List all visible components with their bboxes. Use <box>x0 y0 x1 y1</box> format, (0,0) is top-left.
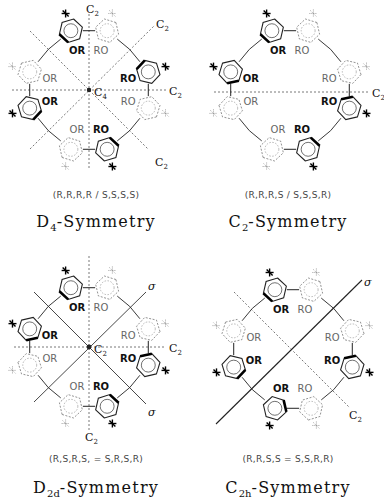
aryl-ring <box>300 397 323 420</box>
tert-butyl-group <box>266 422 274 430</box>
alkoxy-label: RO <box>322 73 337 84</box>
tert-butyl-group <box>8 320 16 328</box>
tert-butyl-group <box>309 163 317 171</box>
aryl-ring <box>338 97 361 120</box>
aryl-ring <box>59 395 82 418</box>
alkoxy-label: OR <box>70 381 85 392</box>
sigma-label-upper-right: σ <box>148 280 156 293</box>
tert-butyl-group <box>108 163 116 171</box>
c2-axis-label-upper-right: C2 <box>156 18 169 33</box>
aryl-ring <box>338 60 361 83</box>
c2-axis-label-bottom: C2 <box>85 431 98 446</box>
panel-d2d: ORROROROROOROROR C2 σ C2 σ C2 (R,S,R,S, … <box>0 252 192 503</box>
symmetry-label: D2d-Symmetry <box>0 478 192 499</box>
tert-butyl-group <box>363 109 371 117</box>
alkoxy-label: OR <box>69 45 86 56</box>
tert-butyl-group <box>266 268 274 276</box>
c2-axis-label-right: C2 <box>372 87 384 102</box>
tert-butyl-group <box>62 163 70 171</box>
stereo-descriptor: (R,S,R,S, = S,R,S,R) <box>0 454 192 464</box>
tert-butyl-group <box>108 266 116 274</box>
alkoxy-label: RO <box>294 124 310 135</box>
aryl-ring <box>96 19 119 42</box>
alkoxy-label: OR <box>246 355 263 366</box>
c2-axis-label-right: C2 <box>169 85 182 100</box>
alkoxy-label: OR <box>69 302 86 313</box>
tert-butyl-group <box>162 63 170 71</box>
aryl-rings: ORROROROROOROROR <box>209 9 370 170</box>
tert-butyl-group <box>312 422 320 430</box>
alkoxy-label: RO <box>120 73 136 84</box>
alkoxy-label: RO <box>120 353 136 364</box>
panel-d4: ORROROROROOROROR C4 C2 C2 C2 C2 (R,R,R,R… <box>0 0 192 252</box>
alkoxy-label: OR <box>246 332 261 343</box>
aryl-ring <box>219 60 242 83</box>
symmetry-axes <box>216 280 362 424</box>
aryl-ring <box>300 278 323 301</box>
alkoxy-label: OR <box>42 73 57 84</box>
aryl-ring <box>59 138 82 161</box>
aryl-ring <box>137 354 160 377</box>
alkoxy-label: RO <box>325 332 340 343</box>
alkoxy-label: OR <box>70 124 85 135</box>
alkoxy-label: OR <box>270 45 287 56</box>
alkoxy-label: OR <box>273 304 290 315</box>
tert-butyl-group <box>212 368 220 376</box>
aryl-ring <box>222 319 245 342</box>
aryl-ring <box>260 138 283 161</box>
tert-butyl-group <box>263 9 271 17</box>
stereo-descriptor: (R,R,R,S / S,S,S,R) <box>192 190 384 200</box>
tert-butyl-group <box>312 268 320 276</box>
symmetry-label: C2h-Symmetry <box>192 478 384 499</box>
aryl-ring <box>137 97 160 120</box>
tert-butyl-group <box>62 266 70 274</box>
tert-butyl-group <box>8 63 16 71</box>
aryl-ring <box>18 317 41 340</box>
aryl-ring <box>18 60 41 83</box>
aryl-ring <box>18 354 41 377</box>
tert-butyl-group <box>309 9 317 17</box>
aryl-ring <box>263 397 286 420</box>
alkoxy-label: OR <box>42 330 59 341</box>
alkoxy-label: OR <box>243 96 258 107</box>
tert-butyl-group <box>62 420 70 428</box>
alkoxy-label: OR <box>273 383 290 394</box>
c2-axis-label-lower-right: C2 <box>155 156 168 171</box>
alkoxy-label: RO <box>121 96 136 107</box>
alkoxy-label: RO <box>94 45 109 56</box>
alkoxy-label: RO <box>93 124 109 135</box>
alkoxy-label: OR <box>243 73 260 84</box>
center-point <box>87 345 92 350</box>
aryl-ring <box>297 19 320 42</box>
tert-butyl-group <box>8 109 16 117</box>
tert-butyl-group <box>108 420 116 428</box>
tert-butyl-group <box>162 109 170 117</box>
alkoxy-label: RO <box>295 45 310 56</box>
tert-butyl-group <box>363 63 371 71</box>
aryl-ring <box>96 276 119 299</box>
symmetry-label: D4-Symmetry <box>0 212 192 233</box>
alkoxy-label: RO <box>94 302 109 313</box>
alkoxy-label: RO <box>121 330 136 341</box>
c2-axis-label-lower-right: C2 <box>349 409 362 424</box>
alkoxy-label: RO <box>93 381 109 392</box>
c4-axis-label: C4 <box>94 86 107 101</box>
aryl-ring <box>341 319 364 342</box>
c2-axis-label-top: C2 <box>86 3 99 18</box>
tert-butyl-group <box>366 322 374 330</box>
macrocycle-d2d-diagram: ORROROROROOROROR C2 σ C2 σ C2 <box>0 252 192 503</box>
alkoxy-label: RO <box>298 304 313 315</box>
panel-c2: ORROROROROOROROR C2 (R,R,R,S / S,S,S,R) … <box>192 0 384 252</box>
panel-c2h: ORROROROROOROROR σ C2 (R,R,S,S = S,S,R,R… <box>192 252 384 503</box>
sigma-label-upper-right: σ <box>364 276 372 289</box>
c2-center-label: C2 <box>94 343 107 358</box>
aryl-ring <box>219 97 242 120</box>
alkoxy-label: OR <box>271 124 286 135</box>
tert-butyl-group <box>162 320 170 328</box>
tert-butyl-group <box>8 366 16 374</box>
tert-butyl-group <box>62 9 70 17</box>
tert-butyl-group <box>108 9 116 17</box>
tert-butyl-group <box>209 109 217 117</box>
alkoxy-label: RO <box>324 355 340 366</box>
symmetry-label: C2-Symmetry <box>192 212 384 233</box>
